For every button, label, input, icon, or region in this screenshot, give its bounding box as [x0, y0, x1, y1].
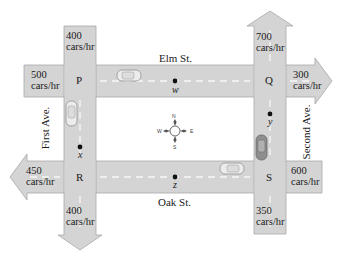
variable-y: y	[268, 116, 272, 127]
oak-street-label: Oak St.	[158, 196, 191, 208]
flow-s-south-in: 350 cars/hr	[256, 205, 285, 227]
flow-r-south-out: 400 cars/hr	[66, 205, 95, 227]
flow-p-north-in: 400 cars/hr	[66, 30, 95, 52]
variable-z: z	[173, 179, 177, 190]
compass-south-label: S	[173, 144, 176, 150]
compass-west-label: W	[157, 128, 162, 134]
flow-q-east-out: 300 cars/hr	[293, 69, 322, 91]
car-second-ave	[256, 135, 267, 160]
flow-p-west-in: 500 cars/hr	[31, 69, 60, 91]
first-avenue-label: First Ave.	[39, 104, 51, 152]
intersection-r: R	[76, 171, 83, 183]
elm-street-label: Elm St.	[159, 52, 192, 64]
car-first-ave	[66, 101, 77, 126]
intersection-s: S	[266, 171, 272, 183]
traffic-network-diagram	[0, 0, 350, 259]
intersection-q: Q	[265, 74, 273, 86]
compass-east-label: E	[190, 128, 193, 134]
car-elm	[117, 70, 141, 81]
variable-w: w	[172, 84, 179, 95]
compass-icon	[163, 119, 187, 143]
variable-x: x	[78, 149, 82, 160]
intersection-p: P	[76, 74, 82, 86]
second-avenue-label: Second Ave.	[300, 102, 312, 162]
flow-s-east-in: 600 cars/hr	[291, 165, 320, 187]
flow-r-west-out: 450 cars/hr	[26, 165, 55, 187]
flow-q-north-out: 700 cars/hr	[256, 31, 285, 53]
dot-w	[173, 79, 178, 84]
compass-north-label: N	[172, 113, 176, 119]
car-oak	[220, 163, 244, 174]
